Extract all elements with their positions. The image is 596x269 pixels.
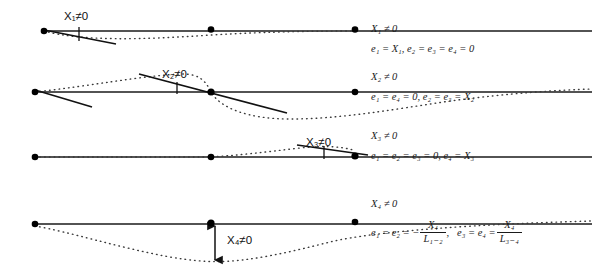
state-row-3 [32, 145, 592, 160]
deflected-shape-row-4 [35, 221, 592, 262]
state-row-1 [41, 26, 592, 44]
state-row-2 [32, 74, 592, 119]
support-node-middle-row-3 [208, 154, 215, 161]
support-node-middle-row-1 [208, 26, 215, 33]
support-node-left-row-3 [32, 154, 39, 161]
support-node-left-row-2 [32, 89, 39, 96]
support-node-right-row-4 [352, 219, 359, 226]
deflected-shape-row-3 [35, 147, 355, 157]
deflected-shape-row-1 [44, 31, 355, 39]
deflected-shape-row-2 [35, 74, 592, 119]
state-row-4 [32, 219, 592, 262]
support-node-right-row-3 [351, 152, 358, 159]
support-node-right-row-2 [352, 89, 359, 96]
support-node-right-row-1 [352, 26, 359, 33]
support-node-left-row-4 [32, 221, 39, 228]
unit-displacement-diagram [0, 0, 596, 269]
support-node-middle-row-2 [207, 88, 214, 95]
tangent-line-row-1 [44, 30, 116, 44]
support-node-middle-row-4 [207, 219, 214, 226]
support-node-left-row-1 [41, 28, 48, 35]
